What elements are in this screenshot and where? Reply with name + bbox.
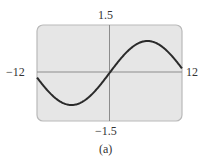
figure-caption: (a) <box>99 143 112 155</box>
x-max-label: 12 <box>186 66 198 78</box>
x-min-label: −12 <box>6 66 25 78</box>
y-max-label: 1.5 <box>98 9 113 21</box>
y-min-label: −1.5 <box>95 125 117 137</box>
